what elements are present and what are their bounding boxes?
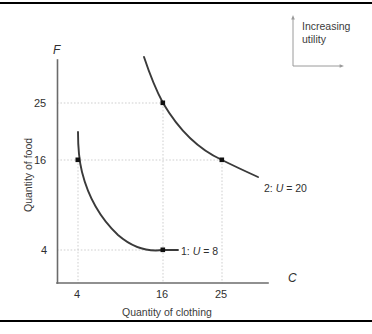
curve-1-label-prefix: 1: — [181, 245, 190, 257]
increasing-utility-annotation: Increasing utility — [292, 16, 368, 68]
point-curve2-25-16 — [220, 158, 225, 163]
indifference-curve-figure: F C 25 16 4 4 16 25 Quantity of food Qua… — [0, 0, 372, 334]
curve-2-label: 2: U = 20 — [264, 182, 307, 194]
curve-2-label-symbol: U — [276, 182, 284, 194]
x-axis-title: Quantity of clothing — [122, 306, 212, 318]
point-curve1-4-16 — [76, 158, 81, 163]
y-tick-label-16: 16 — [34, 154, 46, 167]
curve-1-label: 1: U = 8 — [181, 245, 218, 257]
increasing-utility-line-1: Increasing — [302, 20, 350, 33]
point-curve2-16-25 — [161, 101, 166, 106]
increasing-utility-line-2: utility — [302, 33, 350, 46]
curve-2-label-value: = 20 — [286, 182, 307, 194]
curve-1-label-symbol: U — [193, 245, 201, 257]
curve-2-label-prefix: 2: — [264, 182, 273, 194]
data-point-markers — [76, 101, 225, 253]
indifference-curve-2 — [144, 57, 258, 177]
curve-1-label-value: = 8 — [203, 245, 218, 257]
y-tick-label-25: 25 — [34, 97, 46, 110]
increasing-utility-text: Increasing utility — [302, 20, 350, 46]
y-tick-label-4: 4 — [41, 244, 47, 257]
x-tick-label-4: 4 — [74, 288, 80, 301]
y-axis-title: Quantity of food — [22, 138, 34, 212]
y-axis-symbol: F — [53, 44, 60, 58]
point-curve1-16-4 — [161, 248, 166, 253]
x-axis-symbol: C — [288, 272, 297, 286]
x-tick-label-16: 16 — [156, 288, 168, 301]
x-tick-label-25: 25 — [215, 288, 227, 301]
